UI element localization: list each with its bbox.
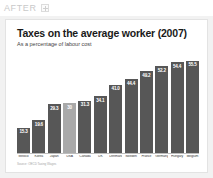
bar-germany[interactable]: 52.2 — [155, 66, 168, 153]
x-label-france: France — [140, 155, 153, 159]
bar-canada[interactable]: 31.3 — [78, 101, 91, 153]
bar-value-label: 31.3 — [81, 103, 89, 108]
bar-sweden[interactable]: 44.4 — [125, 79, 138, 153]
bar-column: 41.0 — [109, 53, 122, 153]
chart-subtitle: As a percentage of labour cost — [17, 41, 92, 47]
bar-value-label: 15.3 — [19, 130, 27, 135]
x-label-japan: Japan — [48, 155, 61, 159]
bar-column: 34.1 — [94, 53, 107, 153]
bar-column: 30 — [63, 53, 76, 153]
x-label-sweden: Sweden — [125, 155, 138, 159]
x-label-hungary: Hungary — [171, 155, 184, 159]
bar-value-label: 54.4 — [173, 65, 181, 70]
after-header-strip: AFTER — [0, 0, 213, 16]
bar-value-label: 19.6 — [35, 123, 43, 128]
bar-column: 31.3 — [78, 53, 91, 153]
bar-value-label: 34.1 — [96, 99, 104, 104]
bar-value-label: 49.2 — [142, 74, 150, 79]
after-label: AFTER — [4, 4, 37, 13]
bar-chart-plot: 15.319.629.33031.334.141.044.449.252.254… — [17, 53, 199, 153]
bar-france[interactable]: 49.2 — [140, 71, 153, 153]
bar-usa[interactable]: 30 — [63, 103, 76, 153]
bar-value-label: 44.4 — [127, 82, 135, 87]
bar-value-label: 55.5 — [188, 63, 196, 68]
bar-value-label: 29.3 — [50, 107, 58, 112]
bar-value-label: 30 — [67, 106, 72, 111]
x-label-belgium: Belgium — [186, 155, 199, 159]
bar-korea[interactable]: 19.6 — [32, 120, 45, 153]
screenshot-root: AFTER Taxes on the average worker (2007)… — [0, 0, 213, 178]
x-label-korea: Korea — [32, 155, 45, 159]
bar-column: 54.4 — [171, 53, 184, 153]
bar-japan[interactable]: 29.3 — [48, 104, 61, 153]
bar-value-label: 41.0 — [112, 87, 120, 92]
bar-denmark[interactable]: 41.0 — [109, 85, 122, 153]
bar-column: 29.3 — [48, 53, 61, 153]
x-label-uk: UK — [94, 155, 107, 159]
chart-source: Source: OECD Taxing Wages — [17, 163, 56, 167]
chart-title: Taxes on the average worker (2007) — [17, 27, 187, 39]
x-label-usa: USA — [63, 155, 76, 159]
x-label-denmark: Denmark — [109, 155, 122, 159]
chart-slide: Taxes on the average worker (2007) As a … — [5, 19, 208, 173]
bar-value-label: 52.2 — [158, 69, 166, 74]
x-axis-labels: MexicoKoreaJapanUSACanadaUKDenmarkSweden… — [17, 155, 199, 159]
bar-column: 15.3 — [17, 53, 30, 153]
x-label-germany: Germany — [155, 155, 168, 159]
bar-column: 55.5 — [186, 53, 199, 153]
bar-column: 44.4 — [125, 53, 138, 153]
bar-uk[interactable]: 34.1 — [94, 96, 107, 153]
bar-belgium[interactable]: 55.5 — [186, 61, 199, 154]
bar-hungary[interactable]: 54.4 — [171, 62, 184, 153]
x-label-mexico: Mexico — [17, 155, 30, 159]
x-label-canada: Canada — [78, 155, 91, 159]
bar-column: 19.6 — [32, 53, 45, 153]
bar-column: 49.2 — [140, 53, 153, 153]
x-axis-line — [17, 153, 199, 154]
plus-icon[interactable] — [41, 4, 49, 12]
bar-column: 52.2 — [155, 53, 168, 153]
bar-mexico[interactable]: 15.3 — [17, 128, 30, 154]
